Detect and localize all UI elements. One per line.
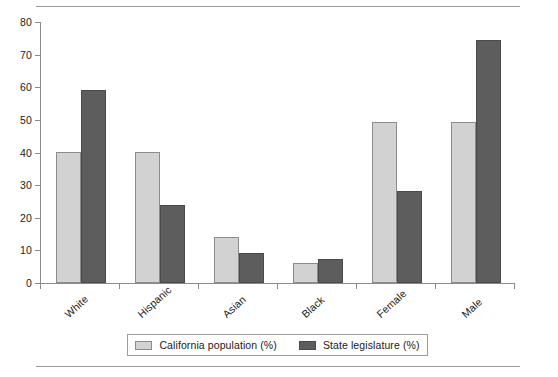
x-axis-tick-label-asian: Asian [220, 293, 248, 320]
y-axis-tick-label: 30 [20, 179, 32, 191]
bar-white-series-2 [81, 90, 106, 283]
x-axis-tick [356, 283, 357, 289]
y-axis-tick-label: 60 [20, 81, 32, 93]
y-axis-tick [35, 218, 40, 219]
y-axis-tick-label: 50 [20, 114, 32, 126]
y-axis-tick-label: 70 [20, 49, 32, 61]
bar-female-series-1 [372, 122, 397, 283]
y-axis-tick [35, 185, 40, 186]
bar-black-series-2 [318, 259, 343, 283]
legend-item-california-population: California population (%) [135, 339, 276, 351]
legend-swatch-icon-california-population [135, 341, 152, 350]
x-axis-tick-label-female: Female [374, 287, 409, 320]
bar-asian-series-2 [239, 253, 264, 283]
bar-male-series-1 [451, 122, 476, 283]
legend-label-california-population: California population (%) [159, 339, 276, 351]
x-axis-tick-label-male: Male [459, 295, 484, 319]
legend-label-state-legislature: State legislature (%) [323, 339, 420, 351]
top-divider-rule [36, 6, 520, 7]
chart-legend: California population (%) State legislat… [127, 334, 428, 356]
x-axis-tick [198, 283, 199, 289]
x-axis-tick-label-black: Black [299, 293, 326, 319]
bar-hispanic-series-1 [135, 152, 160, 283]
bars-layer [41, 22, 514, 283]
legend-swatch-icon-state-legislature [299, 341, 316, 350]
chart-page: 01020304050607080 WhiteHispanicAsianBlac… [0, 0, 558, 377]
y-axis-tick [35, 153, 40, 154]
bar-male-series-2 [476, 40, 501, 283]
y-axis-tick [35, 22, 40, 23]
y-axis-tick [35, 250, 40, 251]
y-axis-tick-label: 40 [20, 147, 32, 159]
y-axis-tick [35, 55, 40, 56]
y-axis-tick-label: 10 [20, 244, 32, 256]
x-axis-tick [435, 283, 436, 289]
bar-black-series-1 [293, 263, 318, 283]
x-axis-tick [119, 283, 120, 289]
plot-area: 01020304050607080 WhiteHispanicAsianBlac… [40, 22, 514, 283]
bar-female-series-2 [397, 191, 422, 283]
bottom-divider-rule [36, 366, 520, 367]
y-axis-tick [35, 87, 40, 88]
x-axis-tick [40, 283, 41, 289]
y-axis-tick-label: 20 [20, 212, 32, 224]
x-axis-tick [277, 283, 278, 289]
y-axis-tick-label: 0 [26, 277, 32, 289]
bar-white-series-1 [56, 152, 81, 283]
y-axis-tick-label: 80 [20, 16, 32, 28]
y-axis-tick [35, 120, 40, 121]
bar-hispanic-series-2 [160, 205, 185, 283]
bar-asian-series-1 [214, 237, 239, 283]
legend-item-state-legislature: State legislature (%) [299, 339, 420, 351]
x-axis-tick [514, 283, 515, 289]
x-axis-tick-label-hispanic: Hispanic [135, 284, 174, 320]
x-axis-tick-label-white: White [62, 293, 90, 320]
